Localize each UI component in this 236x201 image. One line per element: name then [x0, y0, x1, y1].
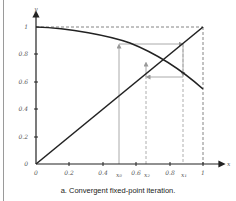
y-tick-0-6: 0.6: [18, 78, 28, 85]
figure-caption: a. Convergent fixed-point iteration.: [0, 186, 236, 195]
y-tick-0-8: 0.8: [18, 50, 28, 57]
iterate-dashed-verticals: [146, 44, 183, 164]
y-tick-0: 0: [24, 160, 28, 167]
x2-label: x₂: [144, 171, 150, 178]
x0-label: x₀: [116, 171, 122, 178]
y-tick-0-2: 0.2: [18, 133, 28, 140]
x-tick-0-6: 0.6: [131, 169, 141, 176]
y-tick-0-4: 0.4: [18, 105, 28, 112]
x-tick-0-2: 0.2: [64, 169, 74, 176]
x-tick-0-4: 0.4: [98, 169, 108, 176]
x1-label: x₁: [181, 171, 187, 178]
x-axis-label: x: [227, 160, 231, 167]
x-tick-1: 1: [201, 169, 205, 176]
y-tick-1: 1: [24, 23, 28, 30]
fixed-point-diagram: 0 0.2 0.4 0.6 0.8 1 y 0 0.2 0.4 0.6 0.8 …: [0, 0, 236, 201]
x-tick-0-8: 0.8: [165, 169, 175, 176]
y-axis-label: y: [33, 5, 38, 13]
cobweb-path: [119, 44, 183, 164]
x-tick-0: 0: [34, 169, 38, 176]
